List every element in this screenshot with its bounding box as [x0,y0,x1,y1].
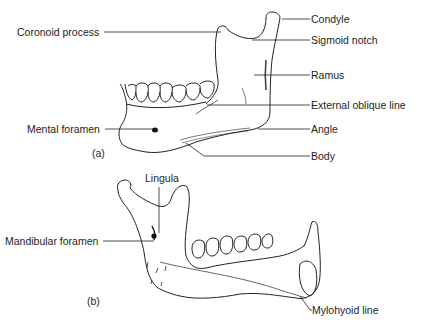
figure-caption-a: (a) [92,147,105,159]
label-mylohyoid-line: Mylohyoid line [312,304,379,316]
leader-lines-b [103,187,312,310]
label-body: Body [311,150,335,162]
mandible-lateral-view [119,12,280,153]
label-condyle: Condyle [311,13,350,25]
mandible-diagram [0,0,422,331]
label-mental-foramen: Mental foramen [27,123,100,135]
label-coronoid-process: Coronoid process [17,26,99,38]
label-external-oblique-line: External oblique line [311,99,406,111]
label-sigmoid-notch: Sigmoid notch [311,34,378,46]
label-angle: Angle [311,123,338,135]
label-ramus: Ramus [311,69,344,81]
leader-lines-a [104,19,310,156]
figure-caption-b: (b) [87,295,100,307]
mandible-medial-view [117,180,320,299]
label-lingula: Lingula [145,172,179,184]
label-mandibular-foramen: Mandibular foramen [5,235,98,247]
